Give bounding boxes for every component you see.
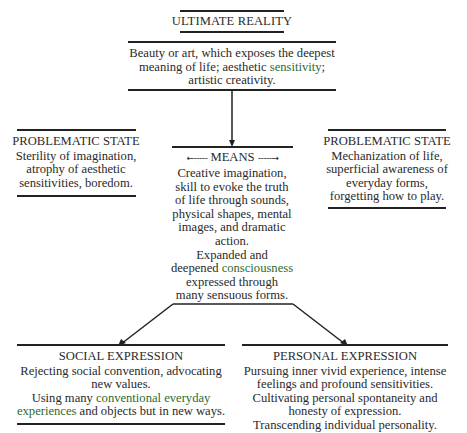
means-line: deepened consciousness	[157, 262, 307, 276]
right-problem-bottom-rule	[328, 207, 446, 209]
highlight-sensitivity: sensitivity	[270, 60, 322, 74]
left-problem-line: Sterility of imagination,	[12, 150, 140, 164]
left-problem-box: PROBLEMATIC STATE Sterility of imaginati…	[12, 135, 140, 190]
top-line-1: Beauty or art, which exposes the deepest	[120, 47, 344, 61]
right-arrow-icon: -----→	[258, 153, 279, 163]
highlight-consciousness: consciousness	[222, 261, 293, 275]
right-problem-line: everyday forms,	[322, 177, 452, 191]
means-line: expressed through	[157, 276, 307, 290]
social-line: Using many conventional everyday	[12, 392, 230, 406]
highlight-experiences: experiences	[17, 404, 76, 418]
left-problem-top-rule	[17, 129, 136, 131]
means-line: images, and dramatic	[157, 221, 307, 235]
social-top-rule	[17, 344, 225, 346]
means-line: many sensuous forms.	[157, 289, 307, 303]
social-line: experiences and objects but in new ways.	[12, 405, 230, 419]
means-title: MEANS	[210, 150, 254, 164]
means-text: Creative imagination, skill to evoke the…	[157, 167, 307, 303]
top-line-2: meaning of life; aesthetic sensitivity;	[120, 61, 344, 75]
right-problem-line: forgetting how to play.	[322, 190, 452, 204]
means-line: Creative imagination,	[157, 167, 307, 181]
personal-line: honesty of expression.	[237, 405, 453, 419]
ultimate-reality-top-rule	[180, 10, 284, 12]
personal-line: Cultivating personal spontaneity and	[237, 392, 453, 406]
personal-line: Transcending individual personality.	[237, 419, 453, 433]
top-box-text: Beauty or art, which exposes the deepest…	[120, 47, 344, 88]
left-arrow-icon: ←-----	[187, 153, 208, 163]
ultimate-reality-title: ULTIMATE REALITY	[170, 14, 294, 29]
right-problem-line: superficial awareness of	[322, 163, 452, 177]
top-box-top-rule	[128, 41, 336, 43]
top-line-3: artistic creativity.	[120, 74, 344, 88]
social-title: SOCIAL EXPRESSION	[12, 350, 230, 364]
personal-line: feelings and profound sensitivities.	[237, 378, 453, 392]
means-line: Expanded and	[157, 249, 307, 263]
personal-line: Pursuing inner vivid experience, intense	[237, 365, 453, 379]
left-problem-line: atrophy of aesthetic	[12, 163, 140, 177]
right-problem-box: PROBLEMATIC STATE Mechanization of life,…	[322, 135, 452, 204]
means-line: skill to evoke the truth	[157, 181, 307, 195]
right-problem-title: PROBLEMATIC STATE	[322, 135, 452, 149]
social-bottom-rule	[17, 423, 225, 425]
personal-title: PERSONAL EXPRESSION	[237, 350, 453, 364]
left-problem-line: sensitivities, boredom.	[12, 177, 140, 191]
top-box-bottom-rule	[128, 89, 336, 91]
left-problem-bottom-rule	[17, 195, 136, 197]
social-line: Rejecting social convention, advocating	[12, 365, 230, 379]
means-top-rule	[172, 146, 293, 148]
highlight-conventional-everyday: conventional everyday	[96, 391, 210, 405]
right-problem-top-rule	[328, 129, 446, 131]
means-line: physical shapes, mental	[157, 208, 307, 222]
means-line: action.	[157, 235, 307, 249]
means-header: ←----- MEANS -----→	[160, 151, 305, 166]
personal-box: PERSONAL EXPRESSION Pursuing inner vivid…	[237, 350, 453, 433]
social-line: new values.	[12, 378, 230, 392]
personal-top-rule	[242, 344, 448, 346]
right-problem-line: Mechanization of life,	[322, 150, 452, 164]
social-box: SOCIAL EXPRESSION Rejecting social conve…	[12, 350, 230, 419]
means-line: of life through sounds,	[157, 194, 307, 208]
ultimate-reality-bottom-rule	[180, 31, 284, 33]
left-problem-title: PROBLEMATIC STATE	[12, 135, 140, 149]
